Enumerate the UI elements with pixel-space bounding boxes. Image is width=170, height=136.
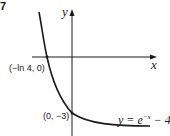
y-intercept-label: (0, −3) [43,111,69,121]
y-intercept-point [71,112,74,115]
y-axis-arrow-icon [70,9,75,16]
equation-suffix: − 4 [151,113,170,127]
graph-figure: 7 y x (−ln 4, 0) (0, −3) y = e−x − 4 [0,0,170,136]
equation-exponent: −x [143,113,151,121]
x-intercept-point [46,56,49,59]
equation-prefix: y = e [118,113,143,127]
curve-exponential [39,12,150,126]
y-axis-label: y [62,4,68,20]
curve-equation-label: y = e−x − 4 [118,113,170,128]
question-number: 7 [0,0,6,12]
x-axis-label: x [151,57,157,73]
x-intercept-label: (−ln 4, 0) [9,63,45,73]
